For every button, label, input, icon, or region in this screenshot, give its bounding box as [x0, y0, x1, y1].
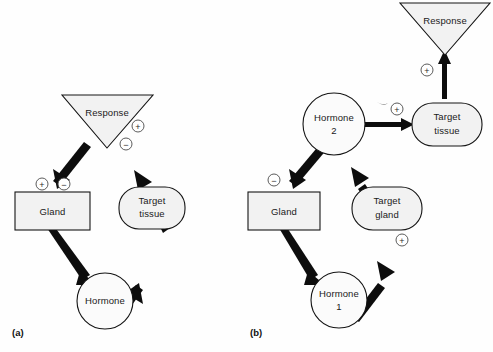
sign-label-response-minus-a: − — [123, 140, 128, 150]
sign-gland-plus-a: + — [36, 178, 48, 190]
arrow-gland-to-hormone1-b — [279, 226, 325, 285]
sign-gland-minus-a: − — [58, 178, 70, 190]
sign-target-tissue-plus-b: + — [391, 103, 403, 115]
node-gland-a: Gland — [15, 192, 90, 230]
sign-gland-minus-b: − — [268, 174, 280, 186]
sign-response-minus-a: − — [120, 138, 132, 150]
sign-label-gland-minus-b: − — [271, 176, 276, 186]
panel-b: Response Hormone 2 Target tissue Gland — [248, 3, 490, 338]
scan-artifact-mark — [377, 102, 388, 105]
hormone-feedback-diagram: Response Gland Target tissue Hormone — [0, 0, 493, 352]
node-label-target-gland-line2: gland — [375, 209, 399, 220]
node-target-tissue-b: Target tissue — [412, 103, 482, 146]
node-label-target-gland-line1: Target — [373, 195, 400, 206]
node-label-hormone2-line2: 2 — [331, 125, 336, 136]
sign-label-gland-minus-a: − — [61, 180, 66, 190]
sign-target-gland-plus-b: + — [396, 234, 408, 246]
arrow-gland-to-hormone — [47, 226, 97, 285]
node-label-hormone-a: Hormone — [85, 295, 125, 306]
node-label-gland-a: Gland — [40, 206, 66, 217]
node-gland-b: Gland — [248, 192, 320, 230]
sign-label-target-tissue-plus-b: + — [394, 105, 399, 115]
node-response-b: Response — [400, 3, 490, 55]
node-label-response-a: Response — [85, 107, 129, 118]
arrow-hormone2-to-target-tissue-b — [357, 118, 414, 131]
node-label-target-tissue-b-line2: tissue — [434, 125, 459, 136]
node-target-gland-b: Target gland — [352, 187, 422, 230]
panel-a: Response Gland Target tissue Hormone — [12, 95, 185, 338]
arrow-target-tissue-to-response-b — [438, 50, 451, 99]
node-label-target-tissue-b-line1: Target — [433, 111, 460, 122]
sign-response-plus-a: + — [132, 120, 144, 132]
node-label-gland-b: Gland — [271, 206, 297, 217]
figure-root: Response Gland Target tissue Hormone — [0, 0, 493, 352]
node-label-response-b: Response — [423, 15, 467, 26]
sign-response-plus-b: + — [421, 64, 433, 76]
node-target-tissue-a: Target tissue — [119, 187, 185, 229]
node-hormone2-b: Hormone 2 — [303, 93, 365, 155]
sign-label-response-plus-a: + — [135, 122, 140, 132]
node-label-hormone1-line2: 1 — [336, 301, 341, 312]
panel-label-b: (b) — [250, 327, 262, 338]
sign-label-target-gland-plus-b: + — [399, 236, 404, 246]
panel-label-a: (a) — [12, 327, 24, 338]
node-hormone1-b: Hormone 1 — [311, 272, 367, 328]
node-label-hormone1-line1: Hormone — [319, 288, 359, 299]
sign-label-gland-plus-a: + — [39, 180, 44, 190]
node-label-target-tissue-a-line2: tissue — [139, 208, 164, 219]
node-label-hormone2-line1: Hormone — [314, 112, 354, 123]
node-hormone-a: Hormone — [77, 273, 133, 329]
sign-label-response-plus-b: + — [424, 66, 429, 76]
node-label-target-tissue-a-line1: Target — [138, 195, 165, 206]
